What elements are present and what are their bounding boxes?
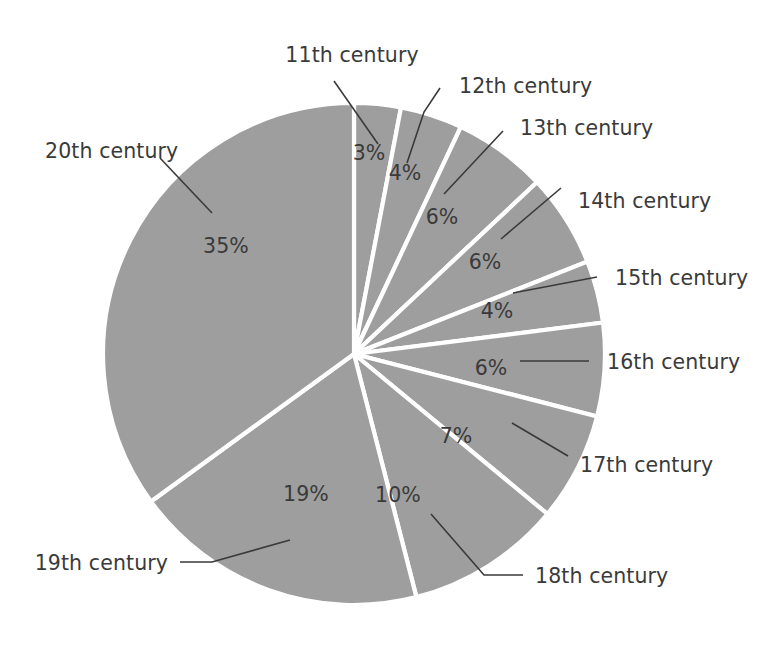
percent-20th-century: 35% bbox=[203, 234, 249, 258]
percent-14th-century: 6% bbox=[469, 250, 502, 274]
label-15th-century: 15th century bbox=[615, 266, 748, 290]
label-13th-century: 13th century bbox=[520, 116, 653, 140]
percent-19th-century: 19% bbox=[283, 482, 329, 506]
label-12th-century: 12th century bbox=[459, 74, 592, 98]
percent-11th-century: 3% bbox=[353, 141, 386, 165]
percent-18th-century: 10% bbox=[375, 483, 421, 507]
percent-13th-century: 6% bbox=[426, 205, 459, 229]
percent-16th-century: 6% bbox=[475, 356, 508, 380]
label-11th-century: 11th century bbox=[285, 43, 418, 67]
pie-chart-figure: 11th century 12th century 13th century 1… bbox=[0, 0, 779, 646]
pie-chart-svg: 11th century 12th century 13th century 1… bbox=[0, 0, 779, 646]
percent-17th-century: 7% bbox=[440, 424, 473, 448]
label-14th-century: 14th century bbox=[578, 189, 711, 213]
label-20th-century: 20th century bbox=[45, 139, 178, 163]
percent-15th-century: 4% bbox=[481, 299, 514, 323]
label-16th-century: 16th century bbox=[607, 350, 740, 374]
label-19th-century: 19th century bbox=[35, 551, 168, 575]
label-18th-century: 18th century bbox=[535, 564, 668, 588]
percent-12th-century: 4% bbox=[389, 161, 422, 185]
label-17th-century: 17th century bbox=[580, 453, 713, 477]
